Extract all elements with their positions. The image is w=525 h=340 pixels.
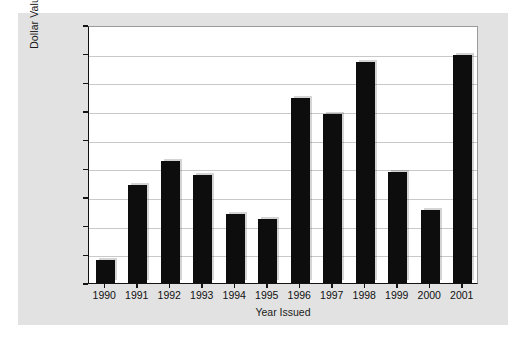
bar: [193, 175, 212, 283]
x-tick-mark: [136, 284, 138, 288]
x-tick-mark: [331, 284, 333, 288]
gridline: [89, 170, 477, 171]
x-axis-title: Year Issued: [88, 306, 478, 318]
gridline: [89, 84, 477, 85]
x-tick-mark: [234, 284, 236, 288]
chart-figure: Dollar Value Issued ($ in billions) 0510…: [0, 0, 525, 340]
bar: [258, 219, 277, 283]
bar: [388, 172, 407, 283]
x-tick-mark: [299, 284, 301, 288]
bar: [161, 161, 180, 283]
bar: [291, 98, 310, 283]
x-tick-mark: [396, 284, 398, 288]
bar: [421, 210, 440, 283]
x-tick-mark: [364, 284, 366, 288]
x-tick-mark: [429, 284, 431, 288]
gridline: [89, 56, 477, 57]
x-tick-mark: [169, 284, 171, 288]
plot-area: [88, 26, 478, 284]
bar: [453, 55, 472, 283]
x-tick-mark: [461, 284, 463, 288]
bar: [226, 214, 245, 283]
y-axis-title: Dollar Value Issued ($ in billions): [28, 0, 44, 76]
gridline: [89, 113, 477, 114]
bar: [96, 260, 115, 283]
x-tick-mark: [201, 284, 203, 288]
x-tick-label: 2001: [442, 289, 482, 301]
bar: [128, 185, 147, 283]
x-tick-mark: [104, 284, 106, 288]
gridline: [89, 142, 477, 143]
x-tick-mark: [266, 284, 268, 288]
bar: [323, 114, 342, 283]
bar: [356, 62, 375, 283]
